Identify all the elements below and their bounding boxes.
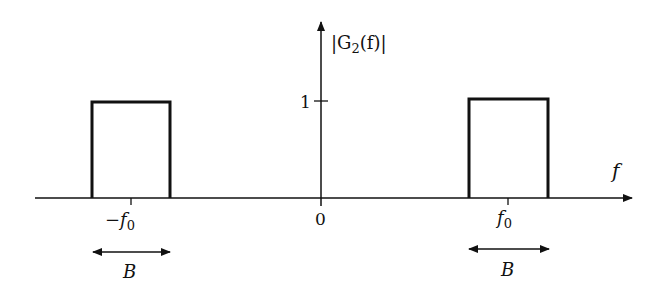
bandwidth-label-right: B [500,259,514,280]
y-axis-label: |G2(f)| [331,32,387,56]
x-tick-label-f0: f0 [495,207,512,231]
x-tick-label-0: 0 [315,209,326,229]
bandwidth-label-left: B [122,261,136,282]
pulse-neg-f0 [92,102,170,198]
pulse-pos-f0 [469,99,548,198]
y-tick-label-1: 1 [300,92,311,112]
x-axis-label-f: f [610,159,623,183]
spectrum-diagram: |G2(f)| 1 0 f −f0 f0 B B [0,0,655,291]
x-tick-label-neg-f0: −f0 [105,209,135,233]
